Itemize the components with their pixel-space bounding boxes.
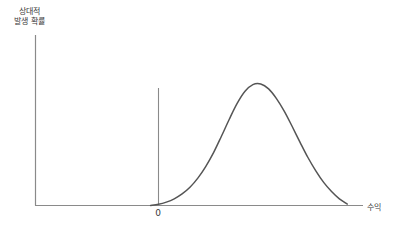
distribution-curve — [151, 84, 348, 206]
axes-group — [35, 35, 363, 206]
distribution-chart-svg — [0, 0, 397, 230]
chart-figure: 상대적 발생 확률 수익 0 — [0, 0, 397, 230]
y-axis-label-line2: 발생 확률 — [14, 17, 46, 27]
y-axis-label: 상대적 발생 확률 — [14, 7, 46, 27]
zero-tick-label: 0 — [152, 208, 164, 218]
x-axis-label: 수익 — [367, 203, 381, 213]
y-axis-label-line1: 상대적 — [19, 7, 41, 16]
